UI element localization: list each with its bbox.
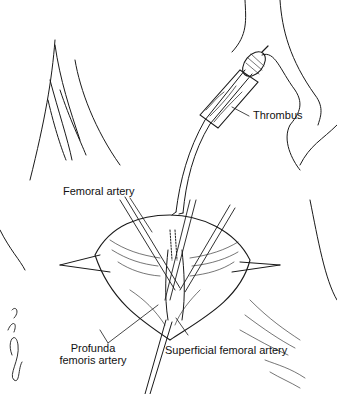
thrombus-leader-line [232, 107, 249, 116]
lower-thigh-lines [240, 200, 337, 388]
profunda-leader-line [100, 305, 158, 343]
profunda-label-line1: Profunda [44, 342, 142, 354]
illustration: Thrombus Femoral artery Profunda femoris… [0, 0, 337, 394]
profunda-femoris-label: Profunda femoris artery [44, 342, 142, 366]
superficial-femoral-artery-label: Superficial femoral artery [165, 344, 287, 356]
thigh-contours [0, 40, 120, 270]
femoral-artery-leader-line [130, 198, 152, 232]
vessel-outline [232, 0, 337, 170]
retractor-left [60, 255, 110, 272]
line-art-drawing [0, 0, 337, 394]
thrombus-label: Thrombus [253, 109, 303, 121]
femoral-artery-label: Femoral artery [63, 185, 135, 197]
profunda-label-line2: femoris artery [44, 354, 142, 366]
retractor-right [232, 262, 280, 272]
signature-mark [8, 308, 22, 380]
